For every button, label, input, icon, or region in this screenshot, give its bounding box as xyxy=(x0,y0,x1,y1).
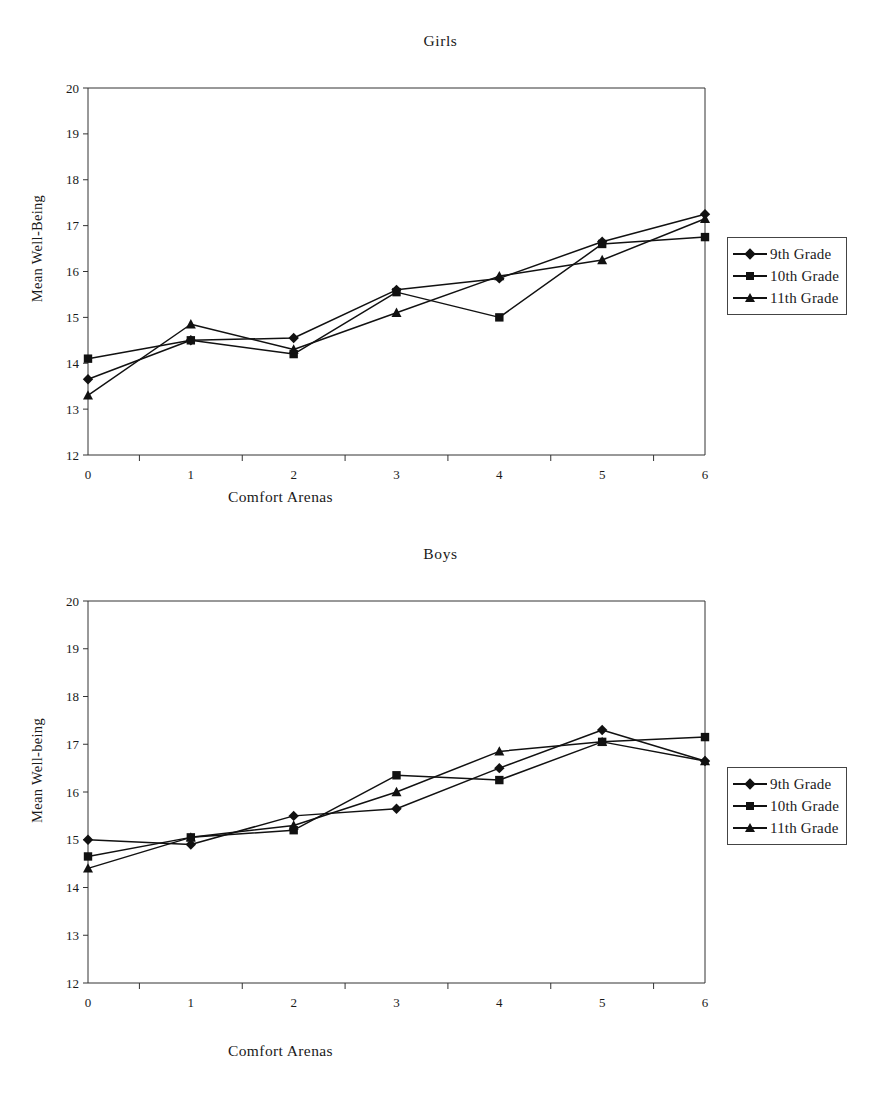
x-tick-label: 5 xyxy=(599,995,606,1010)
y-tick-label: 12 xyxy=(66,448,79,463)
y-tick-label: 20 xyxy=(66,81,79,96)
x-tick-label: 6 xyxy=(702,995,709,1010)
chart-panel-boys: Boys Mean Well-being 1213141516171819200… xyxy=(0,512,881,1095)
legend-item-11th-grade: 11th Grade xyxy=(733,817,839,839)
y-tick-label: 17 xyxy=(66,218,80,233)
y-tick-label: 15 xyxy=(66,832,79,847)
legend-girls: 9th Grade 10th Grade 11th Grade xyxy=(727,237,847,315)
y-tick-label: 12 xyxy=(66,976,79,991)
x-axis: 0123456 xyxy=(85,455,709,482)
triangle-marker-icon xyxy=(392,787,402,796)
figure-page: Girls Mean Well-Being 121314151617181920… xyxy=(0,0,881,1095)
x-axis-label-girls: Comfort Arenas xyxy=(0,488,721,506)
x-tick-label: 2 xyxy=(290,995,297,1010)
y-tick-label: 17 xyxy=(66,737,80,752)
diamond-marker-icon xyxy=(83,374,93,384)
square-marker-icon xyxy=(733,799,767,813)
x-axis-label-boys: Comfort Arenas xyxy=(0,1042,721,1060)
series-11th-grade xyxy=(83,214,710,400)
square-marker-icon xyxy=(495,776,503,784)
y-tick-label: 19 xyxy=(66,641,79,656)
y-tick-label: 15 xyxy=(66,310,79,325)
plot-area-girls: 1213141516171819200123456 xyxy=(0,0,740,500)
diamond-marker-icon xyxy=(597,725,607,735)
plot-area-boys: 1213141516171819200123456 xyxy=(0,512,740,1057)
x-tick-label: 5 xyxy=(599,467,606,482)
x-tick-label: 1 xyxy=(188,995,195,1010)
triangle-marker-icon xyxy=(186,319,196,328)
triangle-marker-icon xyxy=(733,291,767,305)
y-tick-label: 19 xyxy=(66,126,79,141)
square-marker-icon xyxy=(392,288,400,296)
x-tick-label: 0 xyxy=(85,467,92,482)
series-9th-grade xyxy=(83,209,710,385)
x-axis: 0123456 xyxy=(85,983,709,1010)
legend-boys: 9th Grade 10th Grade 11th Grade xyxy=(727,767,847,845)
legend-label: 9th Grade xyxy=(767,246,831,263)
plot-frame xyxy=(88,88,705,455)
legend-item-9th-grade: 9th Grade xyxy=(733,243,839,265)
triangle-marker-icon xyxy=(83,390,93,399)
legend-item-9th-grade: 9th Grade xyxy=(733,773,839,795)
x-tick-label: 3 xyxy=(393,995,400,1010)
y-tick-label: 16 xyxy=(66,264,80,279)
legend-item-10th-grade: 10th Grade xyxy=(733,265,839,287)
triangle-marker-icon xyxy=(597,255,607,264)
legend-item-10th-grade: 10th Grade xyxy=(733,795,839,817)
x-tick-label: 6 xyxy=(702,467,709,482)
y-tick-label: 18 xyxy=(66,172,79,187)
diamond-marker-icon xyxy=(288,811,298,821)
legend-label: 10th Grade xyxy=(767,268,839,285)
x-tick-label: 2 xyxy=(290,467,297,482)
y-tick-label: 20 xyxy=(66,594,79,609)
y-tick-label: 14 xyxy=(66,356,80,371)
y-tick-label: 18 xyxy=(66,689,79,704)
y-axis: 121314151617181920 xyxy=(66,81,88,463)
legend-label: 11th Grade xyxy=(767,290,839,307)
square-marker-icon xyxy=(701,233,709,241)
triangle-marker-icon xyxy=(733,821,767,835)
y-axis: 121314151617181920 xyxy=(66,594,88,991)
square-marker-icon xyxy=(392,771,400,779)
square-marker-icon xyxy=(701,733,709,741)
y-tick-label: 13 xyxy=(66,402,79,417)
square-marker-icon xyxy=(84,852,92,860)
diamond-marker-icon xyxy=(733,777,767,791)
legend-item-11th-grade: 11th Grade xyxy=(733,287,839,309)
square-marker-icon xyxy=(495,313,503,321)
x-tick-label: 1 xyxy=(188,467,195,482)
x-tick-label: 4 xyxy=(496,467,503,482)
y-tick-label: 16 xyxy=(66,785,80,800)
y-tick-label: 14 xyxy=(66,880,80,895)
legend-label: 9th Grade xyxy=(767,776,831,793)
diamond-marker-icon xyxy=(391,804,401,814)
square-marker-icon xyxy=(598,240,606,248)
square-marker-icon xyxy=(84,354,92,362)
x-tick-label: 3 xyxy=(393,467,400,482)
y-tick-label: 13 xyxy=(66,928,79,943)
x-tick-label: 4 xyxy=(496,995,503,1010)
square-marker-icon xyxy=(733,269,767,283)
diamond-marker-icon xyxy=(83,835,93,845)
x-tick-label: 0 xyxy=(85,995,92,1010)
diamond-marker-icon xyxy=(494,763,504,773)
chart-panel-girls: Girls Mean Well-Being 121314151617181920… xyxy=(0,0,881,530)
series-10th-grade xyxy=(84,233,709,363)
square-marker-icon xyxy=(187,336,195,344)
diamond-marker-icon xyxy=(288,333,298,343)
diamond-marker-icon xyxy=(733,247,767,261)
legend-label: 10th Grade xyxy=(767,798,839,815)
legend-label: 11th Grade xyxy=(767,820,839,837)
